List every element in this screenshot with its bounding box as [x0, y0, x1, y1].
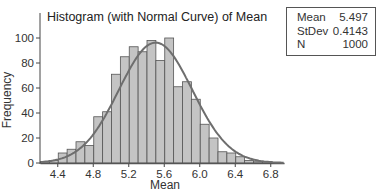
y-tick-label: 80	[21, 57, 34, 69]
stats-row-n: N 1000	[297, 38, 368, 52]
histogram-bar	[227, 153, 236, 163]
y-axis-label: Frequency	[0, 72, 14, 129]
x-tick-label: 6.8	[263, 168, 279, 180]
histogram-bars	[41, 38, 285, 164]
x-axis-label: Mean	[150, 178, 180, 192]
x-tick-label: 5.2	[121, 168, 137, 180]
x-tick-label: 4.8	[85, 168, 101, 180]
x-tick-label: 6.0	[192, 168, 208, 180]
histogram-bar	[191, 99, 200, 163]
histogram-bar	[209, 138, 218, 163]
stats-row-mean: Mean 5.497	[297, 11, 368, 25]
histogram-bar	[138, 52, 147, 163]
histogram-bar	[236, 157, 245, 163]
y-tick-label: 40	[21, 107, 34, 119]
y-tick-label: 100	[15, 32, 34, 44]
histogram-bar	[85, 146, 94, 164]
histogram-bar	[245, 161, 254, 164]
x-tick-label: 4.4	[50, 168, 67, 180]
histogram-bar	[156, 61, 165, 164]
stats-row-stdev: StDev 0.4143	[297, 25, 368, 39]
histogram-bar	[174, 87, 183, 163]
stats-label: Mean	[297, 11, 326, 25]
stats-value: 1000	[342, 38, 368, 52]
stats-label: StDev	[297, 25, 328, 39]
y-axis-ticks: 020406080100	[15, 32, 40, 169]
histogram-bar	[200, 124, 209, 163]
y-tick-label: 0	[28, 157, 34, 169]
histogram-bar	[129, 47, 138, 163]
histogram-bar	[147, 41, 156, 164]
histogram-bar	[218, 152, 227, 163]
stats-value: 0.4143	[333, 25, 368, 39]
x-tick-label: 6.4	[227, 168, 244, 180]
stats-value: 5.497	[339, 11, 368, 25]
y-tick-label: 20	[21, 132, 34, 144]
stats-label: N	[297, 38, 305, 52]
histogram-bar	[165, 38, 174, 163]
histogram-bar	[183, 82, 192, 163]
stats-box: Mean 5.497 StDev 0.4143 N 1000	[286, 7, 376, 56]
chart-title: Histogram (with Normal Curve) of Mean	[47, 10, 267, 24]
y-tick-label: 60	[21, 82, 34, 94]
